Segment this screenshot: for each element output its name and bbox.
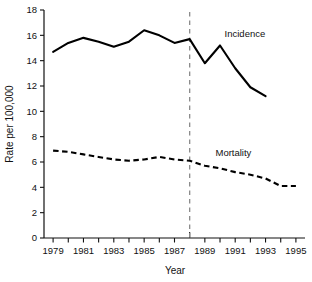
y-tick-label: 8 [32, 131, 37, 142]
y-tick-label: 4 [32, 182, 37, 193]
x-axis-title: Year [165, 265, 186, 276]
x-tick-label: 1995 [285, 245, 306, 256]
x-tick-label: 1993 [255, 245, 276, 256]
series-label-mortality: Mortality [215, 147, 251, 158]
mortality-series-line [53, 151, 296, 186]
series-label-incidence: Incidence [225, 28, 266, 39]
y-tick-label: 16 [26, 30, 37, 41]
x-axis-tick-labels: 197919811983198519871989199119931995 [43, 245, 307, 256]
y-tick-label: 18 [26, 4, 37, 15]
y-tick-label: 6 [32, 156, 37, 167]
y-tick-label: 2 [32, 207, 37, 218]
x-tick-label: 1983 [103, 245, 124, 256]
x-tick-label: 1979 [43, 245, 64, 256]
x-axis-group: 197919811983198519871989199119931995 [43, 232, 307, 256]
x-tick-label: 1985 [134, 245, 155, 256]
y-axis-group: 024681012141618 [26, 4, 44, 243]
incidence-series-line [53, 30, 265, 96]
x-tick-label: 1981 [73, 245, 94, 256]
x-tick-label: 1989 [194, 245, 215, 256]
y-tick-label: 10 [26, 106, 37, 117]
y-tick-label: 14 [26, 55, 37, 66]
x-tick-label: 1991 [225, 245, 246, 256]
x-axis-ticks [53, 232, 296, 243]
y-axis-title: Rate per 100,000 [4, 85, 15, 163]
y-tick-label: 0 [32, 232, 37, 243]
y-tick-label: 12 [26, 80, 37, 91]
x-tick-label: 1987 [164, 245, 185, 256]
line-chart-plot: 024681012141618 197919811983198519871989… [0, 0, 312, 282]
chart-figure: 024681012141618 197919811983198519871989… [0, 0, 312, 282]
y-axis-tick-labels: 024681012141618 [26, 4, 37, 243]
